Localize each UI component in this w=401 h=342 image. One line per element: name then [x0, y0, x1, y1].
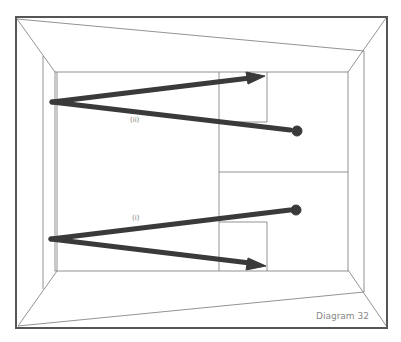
label-ii: (ii)	[130, 116, 139, 124]
ray-i	[51, 205, 301, 270]
outer-frame	[16, 17, 387, 328]
diagram-caption: Diagram 32	[316, 311, 369, 321]
perspective-lines	[17, 18, 387, 327]
dot-marker-icon	[292, 126, 302, 136]
ray-ii	[52, 72, 302, 136]
arrowhead-icon	[246, 258, 266, 270]
dot-marker-icon	[291, 205, 301, 215]
label-i: (i)	[132, 214, 139, 222]
diagram-canvas	[0, 0, 401, 342]
arrowhead-icon	[246, 72, 265, 84]
